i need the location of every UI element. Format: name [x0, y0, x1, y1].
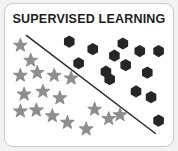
hexagon-marker [146, 91, 157, 103]
hexagon-marker [153, 45, 164, 57]
hexagon-marker [87, 43, 98, 55]
hexagon-marker [73, 57, 84, 69]
star-marker [53, 91, 66, 104]
supervised-learning-card: SUPERVISED LEARNING [4, 3, 174, 147]
hexagon-marker [153, 114, 164, 126]
star-marker [17, 87, 30, 100]
star-marker [61, 115, 74, 128]
star-marker [31, 66, 44, 79]
hexagon-marker [109, 50, 120, 62]
hexagon-marker [120, 59, 131, 71]
hexagon-marker [131, 85, 142, 97]
screenshot-root: SUPERVISED LEARNING [0, 0, 178, 151]
star-marker [36, 84, 49, 97]
marker-layer [14, 36, 164, 135]
star-marker [14, 38, 27, 51]
scatter-plot [5, 4, 173, 146]
star-marker [30, 103, 43, 116]
star-marker [14, 104, 27, 117]
hexagon-marker [64, 36, 75, 48]
star-marker [88, 102, 101, 115]
star-marker [14, 68, 27, 81]
star-marker [24, 53, 37, 66]
star-marker [46, 109, 59, 122]
hexagon-marker [118, 37, 129, 49]
star-marker [102, 112, 115, 125]
star-marker [48, 68, 61, 81]
hexagon-marker [134, 45, 145, 57]
hexagon-marker [142, 67, 153, 79]
star-marker [79, 122, 92, 135]
